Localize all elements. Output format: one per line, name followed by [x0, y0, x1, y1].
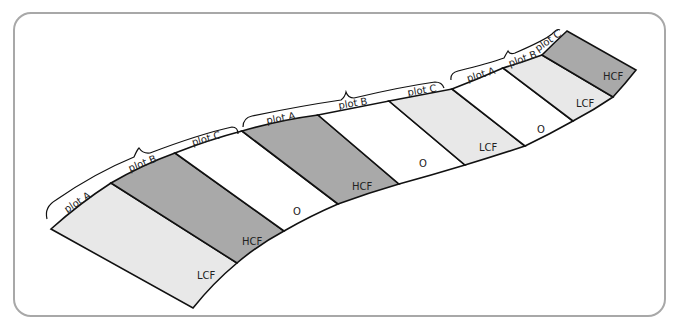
strip-label: LCF	[576, 98, 595, 109]
strip-label: O	[419, 158, 427, 169]
strip-label: LCF	[197, 270, 216, 281]
strip-label: LCF	[479, 142, 498, 153]
strip-label: HCF	[242, 236, 263, 247]
strip-label: HCF	[352, 181, 373, 192]
strip-label: O	[537, 124, 545, 135]
field-strips-diagram: plot A plot B plot C plot A plot B plot …	[0, 0, 681, 333]
strip-label: HCF	[603, 71, 624, 82]
strip-label: O	[293, 206, 301, 217]
